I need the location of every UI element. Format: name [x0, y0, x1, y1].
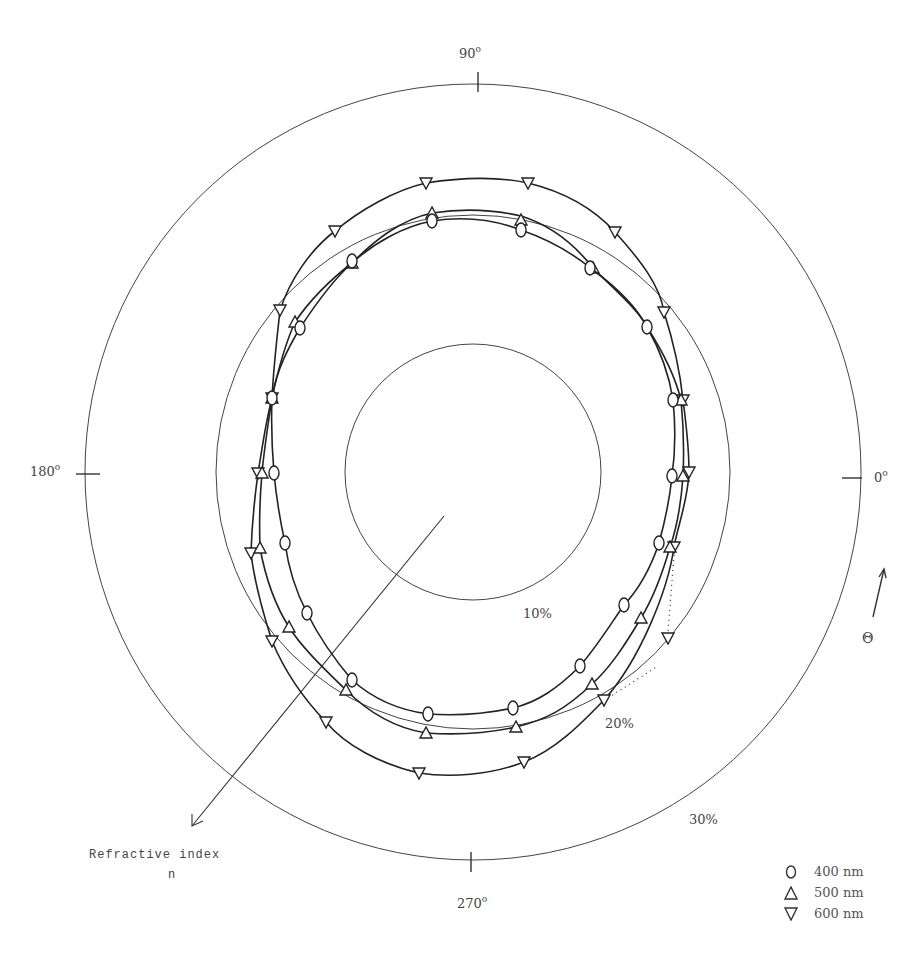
- ring-label-10: 10%: [523, 606, 552, 621]
- angle-label-0: 0o: [874, 470, 888, 485]
- legend-item-600nm: 600 nm: [784, 903, 864, 924]
- legend: 400 nm 500 nm 600 nm: [784, 861, 864, 924]
- ring-30: [85, 84, 861, 860]
- ring-label-20: 20%: [605, 716, 634, 731]
- refractive-index-label: Refractive index: [89, 848, 220, 862]
- refractive-index-arrow: [192, 516, 444, 826]
- theta-arrow-icon: [873, 569, 886, 617]
- series-500nm: [254, 207, 689, 738]
- series-600nm: [245, 178, 695, 779]
- circle-marker-icon: [784, 865, 798, 879]
- series-400nm: [267, 214, 678, 721]
- triangle-down-marker-icon: [784, 907, 798, 921]
- polar-chart: [0, 0, 920, 968]
- triangle-up-marker-icon: [784, 886, 798, 900]
- legend-item-500nm: 500 nm: [784, 882, 864, 903]
- radial-rings: [85, 84, 861, 860]
- refractive-index-symbol: n: [168, 868, 176, 882]
- legend-item-400nm: 400 nm: [784, 861, 864, 882]
- angle-label-90: 90o: [459, 46, 481, 61]
- angle-label-180: 180o: [30, 464, 60, 479]
- ring-10: [345, 344, 601, 600]
- angle-label-270: 270o: [457, 896, 487, 911]
- ring-label-30: 30%: [689, 812, 718, 827]
- angle-ticks: [76, 72, 862, 872]
- ring-20: [216, 215, 730, 729]
- theta-label: Θ: [862, 630, 873, 646]
